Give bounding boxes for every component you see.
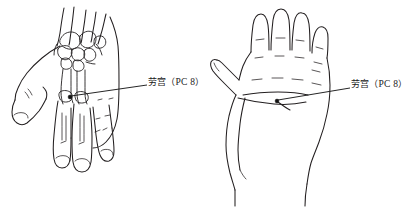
right-base-crease-4 — [312, 83, 321, 85]
right-joint-crease-little-1 — [316, 47, 323, 49]
right-thumb-upper-edge — [217, 60, 239, 80]
right-base-crease-1 — [252, 79, 262, 80]
left-carpal-bone-5 — [71, 48, 84, 61]
left-drooping-finger-3-inner — [109, 105, 112, 128]
right-thenar-outer-edge — [226, 95, 236, 190]
left-skin-crease-2 — [109, 98, 113, 99]
acupoint-label-left-paren-open: （ — [166, 77, 175, 87]
right-hand-drawing — [211, 9, 330, 206]
left-middle-finger-outer-edge — [81, 10, 86, 43]
left-index-finger-outer-edge — [57, 8, 64, 46]
leader-line-left — [71, 85, 147, 96]
left-skin-crease-1 — [98, 99, 102, 100]
left-fingernail-1 — [56, 156, 70, 161]
right-wrist-crease-hint — [240, 170, 246, 179]
left-hand-skin-creases — [61, 98, 113, 144]
right-joint-crease-index-2 — [255, 57, 263, 58]
right-index-base-to-web — [239, 52, 251, 80]
left-carpal-edge-b — [86, 62, 95, 64]
right-joint-crease-ring-2 — [295, 57, 304, 58]
left-fingernail-2 — [75, 159, 90, 164]
acupoint-label-right: 劳宫（PC 8） — [351, 80, 407, 90]
right-hand-ulnar-edge — [307, 58, 330, 184]
right-life-line — [238, 98, 245, 170]
left-metacarpal-shaft-2-left — [77, 71, 79, 104]
right-base-crease-3 — [292, 79, 303, 80]
left-index-finger-inner-edge — [69, 7, 74, 45]
left-skin-crease-5 — [61, 141, 66, 143]
right-ring-finger — [292, 13, 310, 51]
left-carpal-edge-a — [96, 44, 102, 55]
right-joint-crease-ring-1 — [296, 40, 304, 41]
left-carpal-bone-8 — [73, 60, 84, 71]
acupoint-label-left-chinese: 劳宫 — [148, 77, 166, 87]
right-distal-palmar-crease — [243, 92, 308, 95]
left-carpal-bone-6 — [84, 48, 96, 61]
left-thumbnail — [14, 113, 28, 118]
left-thumb — [12, 99, 46, 125]
acupoint-label-right-code: PC 8 — [379, 79, 399, 89]
right-proximal-palmar-crease — [238, 98, 306, 104]
right-thumbnail — [214, 63, 219, 71]
left-carpal-edge-c — [54, 44, 57, 55]
left-thumb-crease-a — [25, 92, 29, 98]
left-thumb-crease-b — [28, 89, 32, 95]
right-wrist-ulnar-edge — [305, 184, 307, 206]
left-hand-thenar-edge — [15, 46, 60, 100]
acupoint-label-right-paren-close: ） — [398, 79, 407, 89]
leader-line-right — [278, 88, 350, 100]
left-skin-crease-4 — [105, 115, 110, 116]
right-joint-crease-little-3 — [312, 70, 320, 72]
left-skin-crease-3 — [96, 118, 100, 119]
acupoint-label-right-chinese: 劳宫 — [351, 79, 369, 89]
right-palm-finger-base-creases — [252, 78, 321, 85]
acupoint-label-left-code: PC 8 — [176, 77, 196, 87]
left-fingernail-3 — [101, 149, 113, 155]
acupoint-figure: 劳宫（PC 8） 劳宫（PC 8） — [0, 0, 420, 207]
right-index-finger — [251, 14, 269, 52]
right-joint-crease-index-1 — [256, 39, 264, 40]
right-joint-crease-little-2 — [314, 62, 322, 64]
left-metacarpal-shaft-1-left — [61, 69, 63, 104]
left-metacarpal-shaft-2-right — [85, 70, 87, 104]
acupoint-label-left: 劳宫（PC 8） — [148, 78, 204, 88]
left-skin-crease-6 — [79, 142, 84, 144]
acupoint-label-left-paren-close: ） — [195, 77, 204, 87]
acupoint-label-right-paren-open: （ — [369, 79, 378, 89]
right-palm-minor-crease — [278, 102, 290, 110]
hand-diagram-svg — [0, 0, 420, 207]
left-hand-carpal-bones — [54, 31, 106, 71]
right-middle-finger — [271, 9, 290, 50]
right-little-finger — [312, 27, 328, 58]
left-thumb-base — [43, 87, 47, 99]
left-hand-drawing — [12, 7, 119, 172]
left-skin-crease-8 — [103, 128, 107, 130]
